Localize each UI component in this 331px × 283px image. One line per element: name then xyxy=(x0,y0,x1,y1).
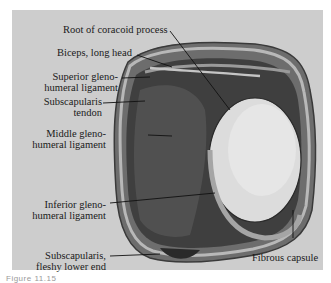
label-superior-gh-line1: Superior gleno- xyxy=(38,71,118,82)
label-subscap-lower-line1: Subscapularis, xyxy=(26,250,106,261)
label-superior-gh-ligament: Superior gleno- humeral ligament xyxy=(38,71,118,93)
label-inferior-gh-line1: Inferior gleno- xyxy=(26,199,106,210)
label-superior-gh-line2: humeral ligament xyxy=(38,82,118,93)
label-subscap-tendon-line1: Subscapularis xyxy=(30,96,102,107)
label-middle-gh-line2: humeral ligament xyxy=(26,139,106,150)
label-subscap-lower-line2: fleshy lower end xyxy=(26,261,106,272)
label-inferior-gh-ligament: Inferior gleno- humeral ligament xyxy=(26,199,106,221)
label-inferior-gh-line2: humeral ligament xyxy=(26,210,106,221)
label-middle-gh-ligament: Middle gleno- humeral ligament xyxy=(26,128,106,150)
label-fibrous-capsule: Fibrous capsule xyxy=(252,252,318,263)
label-subscapularis-tendon: Subscapularis tendon xyxy=(30,96,102,118)
figure-caption: Figure 11.15 xyxy=(6,274,56,283)
label-subscap-tendon-line2: tendon xyxy=(30,107,102,118)
label-subscapularis-lower: Subscapularis, fleshy lower end xyxy=(26,250,106,272)
label-middle-gh-line1: Middle gleno- xyxy=(26,128,106,139)
label-root-coracoid: Root of coracoid process xyxy=(63,24,168,35)
label-biceps-long-head: Biceps, long head xyxy=(57,47,132,58)
